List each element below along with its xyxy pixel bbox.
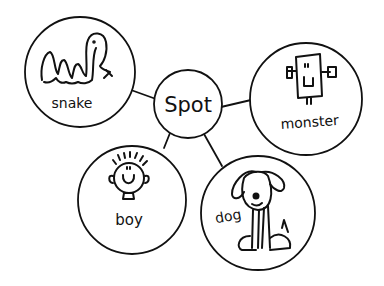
center-node-label: Spot (164, 93, 212, 117)
boy-node-label: boy (115, 211, 143, 229)
connector-boy (164, 133, 170, 148)
concept-web-diagram: Spot snake monster boy dog (0, 0, 384, 286)
snake-node-label: snake (52, 95, 93, 111)
connector-monster (221, 100, 251, 107)
connector-snake (131, 90, 156, 99)
connector-dog (204, 134, 222, 166)
